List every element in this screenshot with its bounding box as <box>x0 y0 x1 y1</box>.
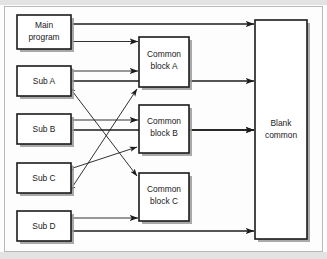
figure-canvas: Main program Sub A Sub B Sub C Sub D <box>0 0 327 259</box>
box-main-program-label-line1: Main <box>35 20 53 30</box>
common-block-diagram: Main program Sub A Sub B Sub C Sub D <box>0 0 327 259</box>
box-sub-d[interactable]: Sub D <box>17 211 74 244</box>
box-blank-common-label-line2: common <box>265 130 297 140</box>
box-common-block-b-label-line1: Common <box>147 116 181 126</box>
scan-bottom-band <box>0 252 327 259</box>
box-sub-c[interactable]: Sub C <box>17 163 74 196</box>
box-sub-a-label: Sub A <box>33 76 56 86</box>
box-sub-d-label: Sub D <box>32 221 55 231</box>
box-blank-common-label-line1: Blank <box>271 118 293 128</box>
box-main-program[interactable]: Main program <box>17 15 74 52</box>
box-main-program-label-line2: program <box>28 32 59 42</box>
box-common-block-c-label-line1: Common <box>147 184 181 194</box>
scan-top-band <box>0 0 327 5</box>
box-common-block-a[interactable]: Common block A <box>139 37 192 90</box>
box-sub-a[interactable]: Sub A <box>17 66 74 99</box>
box-sub-b[interactable]: Sub B <box>17 114 74 147</box>
box-common-block-c[interactable]: Common block C <box>139 173 192 224</box>
box-common-block-b-label-line2: block B <box>150 128 178 138</box>
box-common-block-c-label-line2: block C <box>150 196 178 206</box>
box-sub-b-label: Sub B <box>33 124 56 134</box>
box-common-block-b[interactable]: Common block B <box>139 105 192 156</box>
box-common-block-a-label-line1: Common <box>147 49 181 59</box>
box-sub-c-label: Sub C <box>32 173 55 183</box>
box-blank-common[interactable]: Blank common <box>255 20 310 242</box>
box-common-block-a-label-line2: block A <box>150 61 177 71</box>
